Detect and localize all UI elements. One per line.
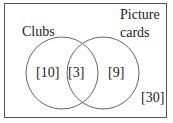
clubs-label: Clubs [22,24,55,39]
picture-cards-label-line2: cards [120,25,150,40]
intersection-value: [3] [68,65,84,80]
picture-cards-label-line1: Picture [120,7,160,22]
picture-cards-only-value: [9] [108,65,124,80]
venn-diagram: Clubs Picture cards [10] [3] [9] [30] [0,0,173,123]
outside-value: [30] [141,90,164,105]
clubs-only-value: [10] [36,65,59,80]
